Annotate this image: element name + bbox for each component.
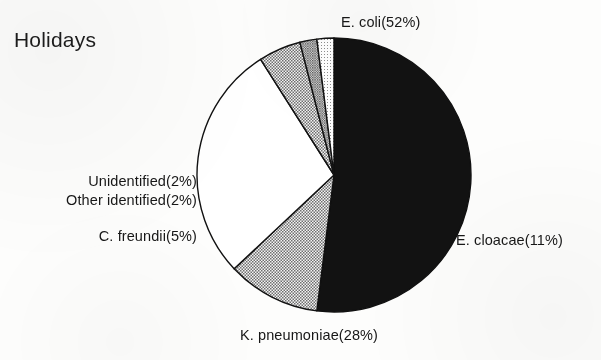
- slice-label-e-cloacae: E. cloacae(11%): [456, 232, 563, 248]
- slice-label-other-identified: Other identified(2%): [66, 192, 197, 208]
- pie-slice-e-coli: [317, 38, 471, 312]
- pie-slice-group: [197, 38, 471, 312]
- slice-label-unidentified: Unidentified(2%): [88, 173, 197, 189]
- slice-label-e-coli: E. coli(52%): [341, 14, 420, 30]
- slice-label-k-pneumoniae: K. pneumoniae(28%): [240, 327, 378, 343]
- pie-chart-figure: Holidays E. coli(52%) E. cloacae(11%) K.…: [0, 0, 601, 360]
- slice-label-c-freundii: C. freundii(5%): [99, 228, 197, 244]
